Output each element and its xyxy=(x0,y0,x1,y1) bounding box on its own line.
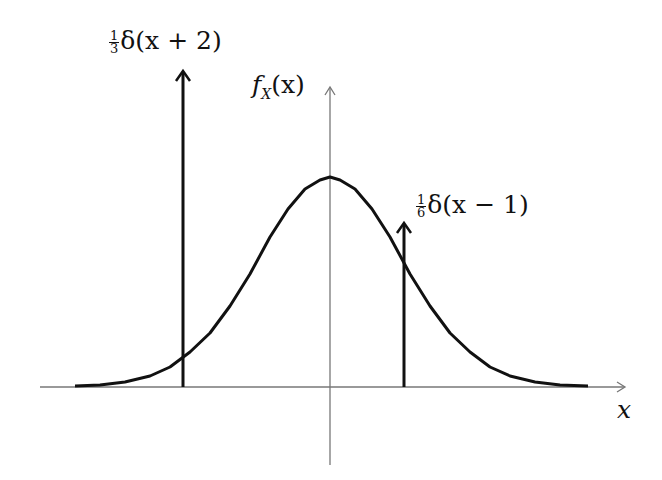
impulse-right-text: δ(x − 1) xyxy=(427,190,528,219)
impulse-left-label: 13δ(x + 2) xyxy=(109,26,222,55)
fraction-denominator: 3 xyxy=(109,43,119,55)
pdf-diagram xyxy=(0,0,662,480)
impulse-left-text: δ(x + 2) xyxy=(120,26,221,55)
x-axis-label: x xyxy=(617,395,631,424)
y-label-f: f xyxy=(252,70,261,99)
impulse-right-label: 16δ(x − 1) xyxy=(416,190,529,219)
y-label-subscript: X xyxy=(261,86,271,102)
fraction-denominator: 6 xyxy=(416,207,426,219)
y-axis-label: fX(x) xyxy=(252,70,305,99)
y-label-arg: (x) xyxy=(271,70,305,99)
